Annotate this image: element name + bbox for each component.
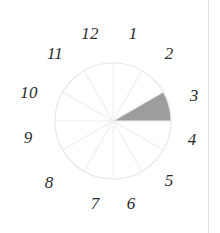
hour-label-10: 10: [20, 84, 37, 101]
hour-label-11: 11: [47, 45, 63, 62]
hour-label-6: 6: [127, 195, 136, 212]
clock-dial-figure: 121112103948576: [0, 0, 220, 233]
hour-label-7: 7: [91, 195, 100, 212]
hour-label-2: 2: [165, 45, 174, 62]
dial-spoke: [63, 121, 113, 150]
hour-label-12: 12: [81, 25, 98, 42]
hour-label-8: 8: [45, 174, 54, 191]
clock-dial-graphic: [0, 0, 220, 233]
dial-spoke: [113, 121, 163, 150]
hour-label-1: 1: [129, 25, 138, 42]
dial-spoke: [84, 121, 113, 171]
hour-label-4: 4: [188, 131, 197, 148]
hour-label-3: 3: [190, 87, 199, 104]
hour-label-9: 9: [24, 129, 33, 146]
hour-label-5: 5: [165, 172, 174, 189]
dial-spoke: [63, 92, 113, 121]
dial-spoke: [84, 71, 113, 121]
dial-spoke: [113, 121, 142, 171]
